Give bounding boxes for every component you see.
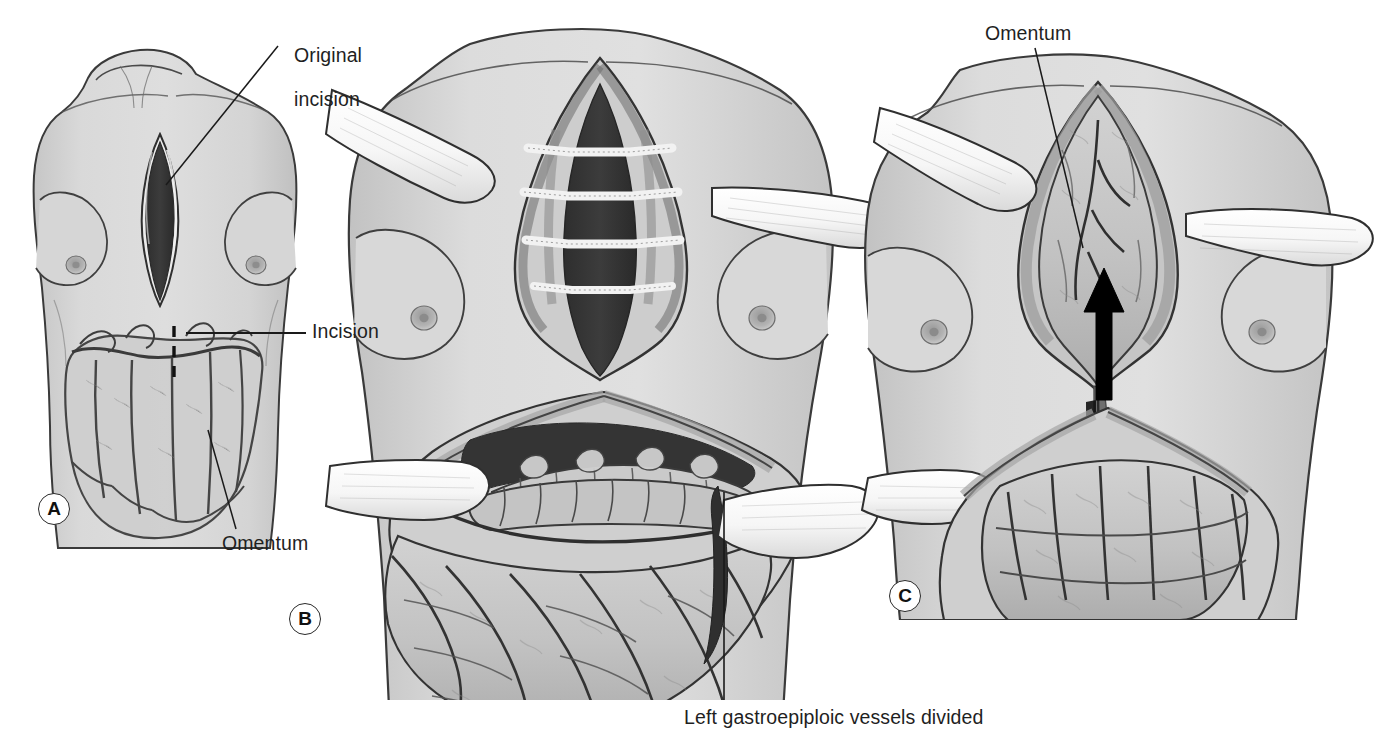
panel-a-illustration	[34, 46, 306, 548]
panel-marker-a: A	[38, 493, 70, 525]
label-original-incision: Original incision	[283, 22, 362, 110]
panel-c-illustration	[862, 48, 1373, 620]
figure-canvas: Original incision Incision Omentum Left …	[0, 0, 1397, 749]
label-original-incision-line1: Original	[294, 44, 362, 66]
label-omentum-c: Omentum	[985, 22, 1071, 44]
panel-marker-c: C	[889, 580, 921, 612]
panel-b-illustration	[326, 29, 905, 749]
label-incision: Incision	[312, 320, 379, 342]
label-omentum-a: Omentum	[222, 532, 308, 554]
panel-marker-b: B	[289, 603, 321, 635]
surgical-illustration	[0, 0, 1397, 749]
retractor-lower-left-b	[326, 460, 489, 520]
omentum-abdomen-c	[982, 460, 1247, 620]
retractor-lower-right-b	[718, 485, 878, 558]
label-original-incision-line2: incision	[294, 88, 360, 110]
label-left-gastroepiploic-vessels-divided: Left gastroepiploic vessels divided	[684, 706, 983, 728]
